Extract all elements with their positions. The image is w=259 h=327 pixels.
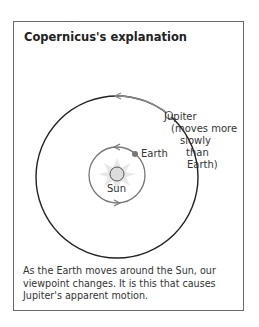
jupiter-note-line-1: (moves more: [171, 123, 237, 135]
earth-icon: [132, 151, 138, 157]
sun-icon: [110, 167, 124, 181]
cropped-heading-fragment: [0, 0, 259, 4]
jupiter-note-line-2: slowly: [180, 135, 211, 147]
explanation-panel: Copernicus's explanation Jupiter (moves …: [13, 21, 244, 311]
jupiter-note-line-3: than: [186, 147, 209, 159]
sun-label: Sun: [107, 183, 126, 195]
panel-caption: As the Earth moves around the Sun, our v…: [23, 265, 238, 303]
jupiter-motion-arc: [117, 96, 169, 115]
jupiter-note-line-4: Earth): [187, 159, 218, 171]
earth-label: Earth: [141, 148, 168, 160]
jupiter-label: Jupiter: [164, 111, 197, 123]
